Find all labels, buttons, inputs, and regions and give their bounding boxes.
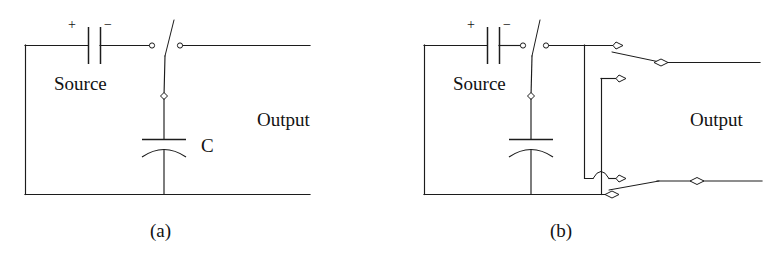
panel-b-polarity-minus-label: − xyxy=(503,18,511,32)
panel-b-output-label: Output xyxy=(690,110,743,129)
panel-b-switch-blade[interactable] xyxy=(532,20,540,56)
panel-a-capacitor-label: C xyxy=(201,136,214,155)
panel-a-caption: (a) xyxy=(150,221,171,240)
panel-b-upper-output-terminal-node[interactable] xyxy=(654,59,668,66)
panel-b-lower-middle-contact-node[interactable] xyxy=(616,175,626,182)
panel-a xyxy=(25,20,310,195)
panel-b-lower-switch-contact-node[interactable] xyxy=(605,191,619,198)
panel-b-polarity-plus-label: + xyxy=(467,18,475,32)
panel-a-polarity-plus-label: + xyxy=(68,18,76,32)
panel-a-switch-open-contact-node[interactable] xyxy=(177,43,182,48)
panel-a-output-label: Output xyxy=(257,110,310,129)
panel-b-switch-pivot-node[interactable] xyxy=(520,43,525,48)
panel-b-upper-switch-contact-node[interactable] xyxy=(613,42,623,49)
panel-b-switch-open-contact-node[interactable] xyxy=(543,43,548,48)
panel-b-switch-stem xyxy=(531,56,532,96)
panel-a-source-label: Source xyxy=(54,74,107,93)
panel-a-switch-blade[interactable] xyxy=(165,20,174,56)
panel-a-switch-pivot-node[interactable] xyxy=(149,43,154,48)
panel-b-left-bus xyxy=(585,45,594,179)
circuit-diagram-svg xyxy=(0,0,773,257)
panel-b-source-label: Source xyxy=(453,74,506,93)
panel-b-upper-middle-contact-node[interactable] xyxy=(616,75,626,82)
panel-b-upper-switch-blade[interactable] xyxy=(612,52,662,63)
panel-a-polarity-minus-label: − xyxy=(104,18,112,32)
panel-a-switch-stem xyxy=(164,56,165,96)
panel-b-lower-switch-blade[interactable] xyxy=(609,181,659,190)
panel-b-lower-output-terminal-node[interactable] xyxy=(690,178,704,185)
figure-root: + − Source C Output (a) + − Source Outpu… xyxy=(0,0,773,257)
panel-b-caption: (b) xyxy=(550,221,572,240)
